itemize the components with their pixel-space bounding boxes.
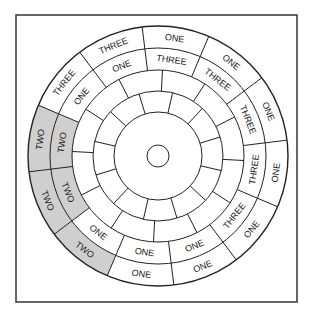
radial-line (171, 198, 177, 218)
inner-label: ONE (134, 246, 155, 259)
ring-circle (72, 70, 244, 242)
inner-label: ONE (72, 86, 92, 108)
ring-circle (50, 48, 266, 264)
inner-label: THREE (156, 53, 188, 67)
radial-line (200, 137, 220, 143)
ring-diagram-svg: ONETHREEONETHREEONETHREEONETHREEONETHREE… (0, 0, 313, 313)
radial-line (213, 191, 231, 202)
radial-line (143, 199, 148, 219)
radial-line (161, 70, 162, 91)
radial-line (86, 109, 104, 120)
ring-diagram: ONETHREEONETHREEONETHREEONETHREEONETHREE… (0, 0, 313, 313)
radial-line (201, 166, 221, 171)
radial-line (95, 141, 115, 146)
outer-label: ONE (242, 218, 262, 240)
radial-line (110, 112, 125, 126)
radial-line (119, 79, 129, 98)
radial-line (223, 159, 244, 160)
outer-label: ONE (270, 162, 283, 183)
radial-line (188, 108, 202, 123)
radial-line (190, 186, 205, 200)
outer-label: ONE (192, 258, 214, 275)
outer-label: THREE (51, 68, 78, 98)
outer-label: ONE (260, 101, 277, 123)
ring-circle (93, 91, 223, 221)
radial-line (216, 117, 235, 127)
inner-label: THREE (221, 201, 248, 231)
outer-label: ONE (220, 52, 242, 72)
inner-label: ONE (111, 58, 133, 75)
ring-circle (147, 145, 169, 167)
radial-line (153, 221, 154, 242)
radial-line (210, 225, 236, 260)
inner-label: THREE (247, 154, 261, 186)
inner-label: ONE (183, 238, 205, 255)
outer-label: ONE (164, 32, 185, 45)
inner-label: THREE (203, 66, 233, 93)
radial-line (111, 211, 122, 229)
radial-line (193, 84, 204, 102)
radial-line (227, 78, 262, 104)
radial-line (81, 186, 100, 196)
ring-circle (114, 112, 202, 200)
radial-line (188, 214, 198, 233)
outer-label: ONE (131, 268, 152, 281)
inner-label: ONE (88, 222, 110, 242)
radial-line (114, 188, 128, 203)
radial-line (139, 94, 145, 114)
radial-line (168, 93, 173, 113)
radial-line (80, 52, 106, 87)
radial-line (96, 169, 116, 175)
radial-line (72, 151, 93, 152)
